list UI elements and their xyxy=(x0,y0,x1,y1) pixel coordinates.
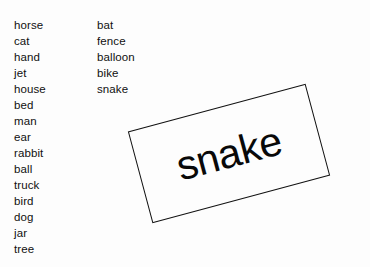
list-item: jar xyxy=(14,225,46,241)
word-list-left-column: horse cat hand jet house bed man ear rab… xyxy=(14,17,46,257)
list-item: ear xyxy=(14,129,46,145)
list-item: balloon xyxy=(97,49,135,65)
list-item: horse xyxy=(14,17,46,33)
list-item: truck xyxy=(14,177,46,193)
list-item: bike xyxy=(97,65,135,81)
list-item: ball xyxy=(14,161,46,177)
list-item: cat xyxy=(14,33,46,49)
list-item: bed xyxy=(14,97,46,113)
list-item: house xyxy=(14,81,46,97)
list-item: hand xyxy=(14,49,46,65)
list-item: man xyxy=(14,113,46,129)
page-canvas: horse cat hand jet house bed man ear rab… xyxy=(0,0,370,267)
list-item: bat xyxy=(97,17,135,33)
rotated-label-box: snake xyxy=(128,84,330,223)
list-item: tree xyxy=(14,241,46,257)
word-list-right-column: bat fence balloon bike snake xyxy=(97,17,135,97)
list-item: dog xyxy=(14,209,46,225)
list-item: bird xyxy=(14,193,46,209)
list-item: rabbit xyxy=(14,145,46,161)
list-item: snake xyxy=(97,81,135,97)
list-item: jet xyxy=(14,65,46,81)
rotated-label-text: snake xyxy=(136,110,322,197)
list-item: fence xyxy=(97,33,135,49)
